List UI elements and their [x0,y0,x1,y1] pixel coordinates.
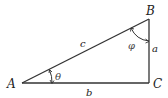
vertex-label-a: A [6,77,16,91]
side-c-hypotenuse [22,19,149,83]
side-label-b: b [86,87,92,98]
side-label-a: a [152,43,158,54]
angle-label-theta: θ [55,71,61,82]
right-triangle-diagram: A B C c a b θ φ [0,0,168,98]
angle-label-phi: φ [128,40,135,51]
vertex-label-c: C [153,77,162,91]
triangle-figure: A B C c a b θ φ [0,0,168,98]
side-label-c: c [80,38,86,49]
vertex-label-b: B [145,4,155,18]
